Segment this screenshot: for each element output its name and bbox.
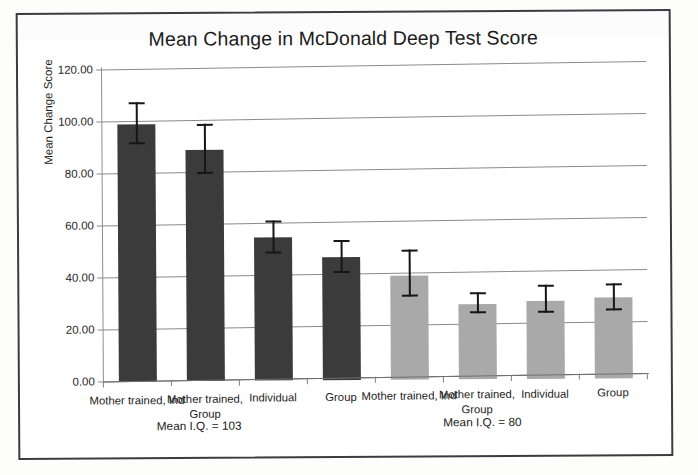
error-bar bbox=[341, 240, 342, 274]
error-bar-stem bbox=[476, 292, 478, 313]
figure-border: Mean Change in McDonald Deep Test Score … bbox=[16, 9, 674, 460]
y-axis-tick-label: 120.00 bbox=[58, 64, 93, 76]
error-bar-cap-bottom bbox=[333, 271, 349, 273]
error-bar bbox=[204, 123, 205, 174]
error-bar-cap-top bbox=[401, 250, 417, 252]
y-axis-tick-label: 20.00 bbox=[66, 324, 95, 336]
x-axis-tick bbox=[171, 380, 172, 386]
bar bbox=[458, 304, 496, 380]
group-annotations: Mean I.Q. = 103Mean I.Q. = 80 bbox=[18, 11, 669, 15]
group-annotation: Mean I.Q. = 80 bbox=[443, 414, 521, 428]
bar bbox=[254, 237, 293, 380]
scanned-page: Mean Change in McDonald Deep Test Score … bbox=[0, 0, 698, 475]
y-axis-tick bbox=[98, 329, 103, 330]
bar bbox=[185, 149, 224, 381]
error-bar bbox=[409, 250, 410, 297]
bar-slot bbox=[170, 69, 240, 381]
error-bar-stem bbox=[612, 283, 614, 310]
y-axis-tick-label: 40.00 bbox=[65, 272, 94, 284]
error-bar-cap-top bbox=[196, 123, 212, 125]
error-bar-cap-top bbox=[265, 220, 281, 222]
error-bar-cap-bottom bbox=[265, 251, 281, 253]
x-axis-tick bbox=[579, 374, 580, 380]
figure-inner: Mean Change in McDonald Deep Test Score … bbox=[18, 11, 672, 458]
error-bar bbox=[272, 221, 273, 254]
x-axis-tick bbox=[103, 381, 104, 387]
bar bbox=[117, 124, 157, 382]
y-axis-tick bbox=[97, 225, 102, 226]
error-bar-cap-top bbox=[333, 240, 349, 242]
error-bar-cap-bottom bbox=[128, 143, 144, 145]
error-bar-stem bbox=[135, 102, 137, 145]
error-bar-cap-bottom bbox=[605, 309, 621, 311]
bar-slot bbox=[102, 69, 172, 381]
bar-slot bbox=[238, 68, 308, 380]
bar-slot bbox=[442, 67, 512, 379]
error-bar-cap-bottom bbox=[537, 310, 553, 312]
x-axis-tick bbox=[307, 378, 308, 384]
error-bar-stem bbox=[340, 240, 342, 274]
bar-slot bbox=[578, 66, 648, 378]
error-bar bbox=[545, 285, 546, 312]
error-bar bbox=[136, 102, 137, 145]
bar bbox=[322, 256, 361, 380]
group-annotation: Mean I.Q. = 103 bbox=[157, 419, 242, 434]
x-axis-label: Group bbox=[565, 385, 661, 400]
bar-slot bbox=[374, 67, 444, 379]
plot-area: 0.0020.0040.0060.0080.00100.00120.00 Mot… bbox=[101, 66, 648, 381]
y-axis-title: Mean Change Score bbox=[42, 59, 55, 165]
error-bar-cap-bottom bbox=[197, 172, 213, 174]
chart-title: Mean Change in McDonald Deep Test Score bbox=[18, 26, 669, 52]
x-axis-tick bbox=[375, 377, 376, 383]
error-bar-stem bbox=[203, 123, 205, 174]
x-axis-tick bbox=[511, 375, 512, 381]
y-axis-tick-label: 80.00 bbox=[65, 168, 94, 180]
y-axis-tick bbox=[97, 173, 102, 174]
x-axis-tick bbox=[239, 379, 240, 385]
bar-slot bbox=[510, 67, 580, 379]
y-axis-tick-label: 100.00 bbox=[58, 116, 93, 128]
error-bar-cap-top bbox=[537, 285, 553, 287]
bar-slot bbox=[306, 68, 376, 380]
error-bar-stem bbox=[408, 250, 410, 297]
error-bar-stem bbox=[272, 221, 274, 254]
error-bar bbox=[613, 283, 614, 310]
error-bar-cap-top bbox=[469, 292, 485, 294]
y-axis-tick bbox=[96, 121, 101, 122]
y-axis-tick bbox=[97, 277, 102, 278]
error-bar-cap-top bbox=[605, 283, 621, 285]
error-bar-cap-bottom bbox=[401, 294, 417, 296]
y-axis-tick-label: 60.00 bbox=[65, 220, 94, 232]
y-axis-tick-label: 0.00 bbox=[72, 376, 94, 388]
x-axis-tick bbox=[443, 376, 444, 382]
error-bar bbox=[477, 292, 478, 313]
bar-series bbox=[102, 66, 648, 381]
error-bar-cap-top bbox=[128, 102, 144, 104]
error-bar-cap-bottom bbox=[469, 311, 485, 313]
y-axis-tick bbox=[96, 69, 101, 70]
error-bar-stem bbox=[544, 285, 546, 312]
x-axis-tick bbox=[647, 373, 648, 379]
